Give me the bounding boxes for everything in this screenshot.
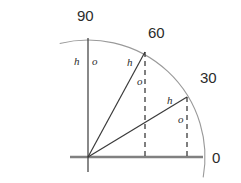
side-label-h-60: h	[127, 57, 133, 68]
side-label-o-30: o	[178, 114, 184, 125]
ray-60-degrees	[88, 52, 145, 157]
diagram-canvas	[0, 0, 241, 183]
angle-label-0: 0	[212, 150, 220, 165]
side-label-o-60: o	[137, 76, 143, 87]
side-label-h-90: h	[74, 56, 80, 67]
trigonometry-diagram: 90 60 30 0 h o h o h o	[0, 0, 241, 183]
side-label-o-90: o	[92, 56, 98, 67]
angle-label-30: 30	[200, 70, 217, 85]
ray-30-degrees	[88, 97, 187, 157]
angle-label-60: 60	[148, 25, 165, 40]
side-label-h-30: h	[167, 95, 173, 106]
angle-label-90: 90	[77, 8, 94, 23]
